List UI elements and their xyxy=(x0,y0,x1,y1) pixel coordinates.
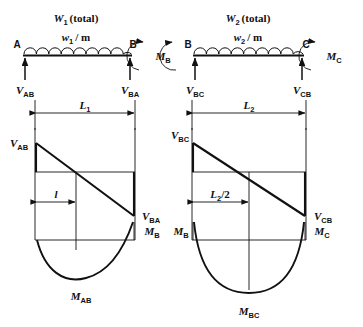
interspan-moment-sub: B xyxy=(165,56,171,65)
svg-text:w1/ m: w1/ m xyxy=(62,31,91,46)
left-zero-shear-dimension: l xyxy=(37,172,76,250)
left-panel-diagrams: L1 VAB VBA l xyxy=(10,99,161,305)
right-moment-label-b: MB xyxy=(172,225,189,240)
right-span-sub: 2 xyxy=(250,105,254,114)
left-total-load-label: W1(total) xyxy=(54,12,99,27)
left-span-beam-group: W1(total) w1/ m A B xyxy=(13,12,143,99)
right-node-b-label: B xyxy=(184,39,191,50)
left-shear-sub-ab: AB xyxy=(17,143,28,152)
left-span-dimension: L1 xyxy=(36,99,134,114)
right-moment-sub-b: B xyxy=(183,231,189,240)
left-total-load-subscript: 1 xyxy=(63,18,67,27)
left-moment-label-ab: MAB xyxy=(70,290,92,305)
right-reaction-sub-cb: CB xyxy=(300,90,311,99)
right-panel-diagrams: L2 VBC VCB L2/2 xyxy=(171,99,333,320)
left-shear-label-ab: VAB xyxy=(10,137,29,152)
left-moment-label-b: MB xyxy=(143,225,160,240)
left-moment-curve xyxy=(37,222,133,279)
left-distributed-load-scallops xyxy=(24,48,132,54)
right-total-load-paren: (total) xyxy=(242,12,271,25)
right-shear-sub-bc: BC xyxy=(178,135,189,144)
right-span-beam-group: W2(total) w2/ m B C xyxy=(160,12,342,99)
right-shear-label-bc: VBC xyxy=(171,129,190,144)
right-span-dimension-label: L2 xyxy=(243,99,255,114)
right-zero-shear-dimension: L2/2 xyxy=(194,172,249,290)
right-shear-label-cb: VCB xyxy=(314,210,333,225)
right-moment-label-c: MC xyxy=(313,225,330,240)
left-reaction-sub-ab: AB xyxy=(23,90,34,99)
right-half-span-label: L2/2 xyxy=(209,188,230,203)
left-span-sub: 1 xyxy=(86,105,90,114)
left-udl-label: w1/ m xyxy=(62,31,91,46)
left-span-dimension-label: L1 xyxy=(79,99,91,114)
left-node-a-label: A xyxy=(13,39,20,50)
interspan-moment-label-mb: MB xyxy=(154,50,171,65)
right-moment-sub-c: C xyxy=(324,231,330,240)
left-reaction-label-ab: VAB xyxy=(16,84,35,99)
left-shear-slope xyxy=(36,143,134,216)
left-shear-sub-ba: BA xyxy=(149,216,160,225)
left-shear-label-ba: VBA xyxy=(142,210,161,225)
right-span-dimension: L2 xyxy=(193,99,305,114)
right-moment-sub-bc: BC xyxy=(248,311,259,320)
left-udl-unit: / m xyxy=(74,31,90,43)
right-reaction-label-bc: VBC xyxy=(186,84,205,99)
right-reaction-label-cb: VCB xyxy=(293,84,312,99)
left-moment-sub-ab: AB xyxy=(80,296,91,305)
svg-text:MB: MB xyxy=(154,50,171,65)
right-reaction-sub-bc: BC xyxy=(193,90,204,99)
right-half-span-divisor: /2 xyxy=(220,188,230,200)
left-reaction-label-ba: VBA xyxy=(121,84,140,99)
left-moment-sub-b: B xyxy=(154,231,160,240)
left-shear-diagram xyxy=(36,143,134,216)
right-udl-subscript: 2 xyxy=(241,37,245,46)
right-end-moment-label-c: MC xyxy=(325,50,342,65)
left-total-load-paren: (total) xyxy=(70,12,99,25)
left-udl-subscript: 1 xyxy=(69,37,73,46)
beam-diagram-figure: W1(total) w1/ m A B xyxy=(0,0,363,327)
right-distributed-load-scallops xyxy=(194,48,303,54)
svg-text:W2(total): W2(total) xyxy=(226,12,271,27)
right-shear-sub-cb: CB xyxy=(321,216,332,225)
right-udl-label: w2/ m xyxy=(234,31,263,46)
left-zero-shear-label: l xyxy=(54,188,58,200)
svg-text:W1(total): W1(total) xyxy=(54,12,99,27)
right-total-load-label: W2(total) xyxy=(226,12,271,27)
right-total-load-subscript: 2 xyxy=(235,18,239,27)
left-reaction-sub-ba: BA xyxy=(128,90,139,99)
right-end-moment-sub-c: C xyxy=(336,56,342,65)
right-udl-unit: / m xyxy=(246,31,262,43)
right-node-c-label: C xyxy=(302,39,309,50)
svg-text:w2/ m: w2/ m xyxy=(234,31,263,46)
right-moment-label-bc: MBC xyxy=(238,305,260,320)
